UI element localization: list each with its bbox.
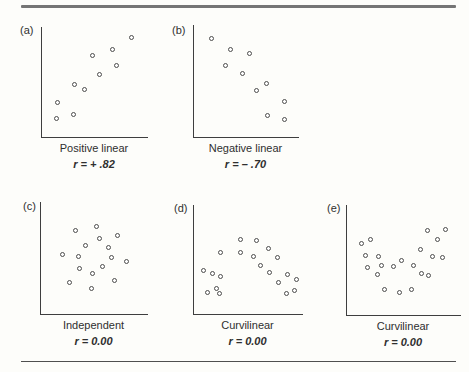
caption-c: Independent r = 0.00 (30, 318, 157, 349)
data-point (55, 100, 60, 105)
data-point (112, 278, 117, 283)
data-point (391, 264, 396, 269)
data-point (294, 277, 299, 282)
data-point (285, 272, 290, 277)
data-point (265, 113, 270, 118)
scatter-plot-a (41, 27, 148, 138)
data-point (254, 238, 259, 243)
caption-e: Curvilinear r = 0.00 (336, 319, 469, 350)
data-point (254, 88, 259, 93)
data-point (238, 250, 243, 255)
bottom-rule (21, 361, 456, 362)
data-point (363, 253, 368, 258)
data-point (247, 51, 252, 56)
data-point (275, 255, 280, 260)
data-point (365, 265, 370, 270)
data-point (218, 250, 223, 255)
data-point (97, 72, 102, 77)
data-point (284, 291, 289, 296)
data-point (418, 247, 423, 252)
data-point (124, 259, 129, 264)
data-point (71, 112, 76, 117)
r-value-b: r = – .70 (183, 157, 308, 172)
data-point (114, 63, 119, 68)
data-point (282, 117, 287, 122)
r-value-d: r = 0.00 (183, 334, 312, 349)
data-point (276, 280, 281, 285)
data-point (97, 236, 102, 241)
data-point (73, 228, 78, 233)
data-point (267, 270, 272, 275)
data-point (209, 36, 214, 41)
data-point (440, 255, 445, 260)
data-point (435, 237, 440, 242)
data-point (106, 245, 111, 250)
caption-d: Curvilinear r = 0.00 (183, 318, 312, 349)
data-point (375, 272, 380, 277)
plot-title-d: Curvilinear (183, 318, 312, 332)
scatter-plot-d (193, 205, 303, 315)
panel-label-e: (e) (327, 202, 340, 214)
data-point (94, 224, 99, 229)
data-point (90, 271, 95, 276)
data-point (282, 99, 287, 104)
caption-a: Positive linear r = + .82 (31, 141, 157, 172)
data-point (425, 228, 430, 233)
data-point (82, 87, 87, 92)
data-point (411, 263, 416, 268)
data-point (100, 264, 105, 269)
data-point (218, 274, 223, 279)
data-point (89, 286, 94, 291)
plot-title-b: Negative linear (183, 141, 308, 155)
scatter-plot-c (40, 202, 148, 315)
data-point (223, 63, 228, 68)
data-point (238, 237, 243, 242)
plot-title-a: Positive linear (31, 141, 157, 155)
top-rule (21, 5, 456, 8)
data-point (419, 271, 424, 276)
data-point (115, 233, 120, 238)
scatter-plot-b (193, 25, 299, 138)
data-point (359, 241, 364, 246)
data-point (72, 82, 77, 87)
r-value-a: r = + .82 (31, 157, 157, 172)
data-point (379, 263, 384, 268)
data-point (60, 252, 65, 257)
data-point (201, 268, 206, 273)
correlation-scatterplots-figure: (a) Positive linear r = + .82 (b) Negati… (0, 0, 469, 372)
data-point (110, 47, 115, 52)
data-point (264, 81, 269, 86)
data-point (376, 254, 381, 259)
data-point (240, 71, 245, 76)
data-point (409, 287, 414, 292)
data-point (77, 266, 82, 271)
data-point (399, 258, 404, 263)
data-point (205, 290, 210, 295)
data-point (426, 273, 431, 278)
data-point (228, 47, 233, 52)
plot-title-e: Curvilinear (336, 319, 469, 333)
data-point (292, 288, 297, 293)
data-point (67, 280, 72, 285)
panel-label-d: (d) (174, 202, 187, 214)
panel-label-c: (c) (23, 200, 36, 212)
data-point (210, 271, 215, 276)
data-point (258, 263, 263, 268)
data-point (443, 227, 448, 232)
scatter-plot-e (346, 205, 461, 316)
data-point (251, 254, 256, 259)
data-point (76, 254, 81, 259)
r-value-e: r = 0.00 (336, 335, 469, 350)
data-point (90, 53, 95, 58)
panel-label-a: (a) (20, 24, 33, 36)
r-value-c: r = 0.00 (30, 334, 157, 349)
data-point (83, 243, 88, 248)
caption-b: Negative linear r = – .70 (183, 141, 308, 172)
data-point (54, 116, 59, 121)
data-point (368, 237, 373, 242)
data-point (129, 35, 134, 40)
data-point (266, 246, 271, 251)
data-point (430, 254, 435, 259)
panel-label-b: (b) (172, 24, 185, 36)
data-point (109, 255, 114, 260)
